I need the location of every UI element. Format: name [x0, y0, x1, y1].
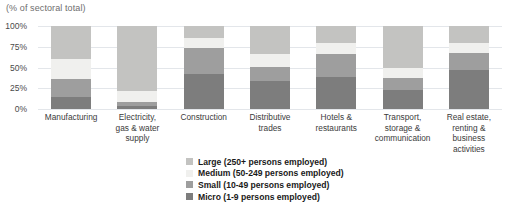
category-label-line: Transport,	[370, 112, 434, 123]
bar-segment-small[interactable]	[51, 79, 91, 97]
bar-segment-small[interactable]	[383, 78, 423, 90]
bar-stack	[184, 26, 224, 109]
bar-segment-micro[interactable]	[51, 97, 91, 109]
category-label-line: Manufacturing	[39, 112, 103, 123]
category-label-line: business	[437, 133, 501, 144]
category-label-line: storage &	[370, 123, 434, 134]
legend-swatch-icon	[186, 170, 193, 177]
legend-swatch-icon	[186, 181, 193, 188]
category-label-line: gas & water	[105, 123, 169, 134]
bar-stack	[51, 26, 91, 109]
bar-column[interactable]	[316, 26, 356, 109]
bar-column[interactable]	[449, 26, 489, 109]
bar-segment-large[interactable]	[316, 26, 356, 43]
bar-segment-medium[interactable]	[449, 43, 489, 52]
bar-segment-small[interactable]	[449, 53, 489, 70]
bar-stack	[316, 26, 356, 109]
bar-segment-micro[interactable]	[449, 70, 489, 109]
bar-segment-large[interactable]	[250, 26, 290, 54]
bar-segment-small[interactable]	[316, 54, 356, 77]
category-label-line: trades	[238, 123, 302, 134]
category-label-line: renting &	[437, 123, 501, 134]
bar-segment-micro[interactable]	[316, 77, 356, 109]
category-label-line: Electricity,	[105, 112, 169, 123]
x-axis-category-label: Distributivetrades	[238, 112, 302, 133]
bar-column[interactable]	[117, 26, 157, 109]
x-axis-category-label: Hotels &restaurants	[304, 112, 368, 133]
bar-segment-micro[interactable]	[117, 106, 157, 109]
legend-item[interactable]: Medium (50-249 persons employed)	[186, 168, 446, 180]
legend-swatch-icon	[186, 193, 193, 200]
legend-item[interactable]: Small (10-49 persons employed)	[186, 179, 446, 191]
bar-segment-medium[interactable]	[383, 68, 423, 79]
bar-segment-medium[interactable]	[316, 43, 356, 55]
bar-column[interactable]	[51, 26, 91, 109]
bar-column[interactable]	[250, 26, 290, 109]
category-label-line: Distributive	[238, 112, 302, 123]
x-axis-category-label: Manufacturing	[39, 112, 103, 123]
bar-segment-medium[interactable]	[184, 38, 224, 48]
bar-stack	[117, 26, 157, 109]
bar-segment-large[interactable]	[383, 26, 423, 68]
legend-swatch-icon	[186, 158, 193, 165]
bars-layer	[38, 26, 502, 109]
bar-stack	[250, 26, 290, 109]
legend-item[interactable]: Large (250+ persons employed)	[186, 156, 446, 168]
bar-segment-micro[interactable]	[250, 81, 290, 109]
bar-stack	[383, 26, 423, 109]
y-axis-tick-label: 50%	[0, 63, 27, 73]
legend-label: Large (250+ persons employed)	[198, 157, 327, 167]
bar-column[interactable]	[184, 26, 224, 109]
axis-note: (% of sectoral total)	[6, 3, 86, 13]
category-label-line: restaurants	[304, 123, 368, 134]
x-axis-category-label: Real estate,renting &businessactivities	[437, 112, 501, 154]
stacked-bar-chart: (% of sectoral total) 0%25%50%75%100% Ma…	[0, 0, 510, 220]
bar-segment-large[interactable]	[449, 26, 489, 43]
category-label-line: supply	[105, 133, 169, 144]
bar-segment-large[interactable]	[117, 26, 157, 91]
category-label-line: communication	[370, 133, 434, 144]
bar-segment-large[interactable]	[51, 26, 91, 59]
y-axis-tick-label: 100%	[0, 21, 27, 31]
bar-stack	[449, 26, 489, 109]
bar-segment-small[interactable]	[184, 48, 224, 75]
bar-segment-micro[interactable]	[184, 74, 224, 109]
legend-label: Micro (1-9 persons employed)	[198, 192, 320, 202]
category-label-line: Construction	[172, 112, 236, 123]
y-axis-tick-label: 75%	[0, 42, 27, 52]
bar-segment-medium[interactable]	[51, 59, 91, 79]
bar-segment-small[interactable]	[250, 67, 290, 81]
legend-label: Medium (50-249 persons employed)	[198, 168, 344, 178]
x-axis-category-label: Construction	[172, 112, 236, 123]
bar-segment-micro[interactable]	[383, 90, 423, 109]
category-label-line: Real estate,	[437, 112, 501, 123]
x-axis-category-label: Transport,storage &communication	[370, 112, 434, 144]
gridline	[38, 109, 502, 110]
y-axis-tick-label: 0%	[0, 104, 27, 114]
chart-legend: Large (250+ persons employed)Medium (50-…	[186, 156, 446, 202]
bar-segment-medium[interactable]	[250, 54, 290, 66]
x-axis-category-label: Electricity,gas & watersupply	[105, 112, 169, 144]
bar-segment-medium[interactable]	[117, 91, 157, 103]
category-label-line: activities	[437, 144, 501, 155]
category-label-line: Hotels &	[304, 112, 368, 123]
bar-column[interactable]	[383, 26, 423, 109]
bar-segment-large[interactable]	[184, 26, 224, 38]
y-axis-tick-label: 25%	[0, 83, 27, 93]
legend-item[interactable]: Micro (1-9 persons employed)	[186, 191, 446, 203]
legend-label: Small (10-49 persons employed)	[198, 180, 329, 190]
